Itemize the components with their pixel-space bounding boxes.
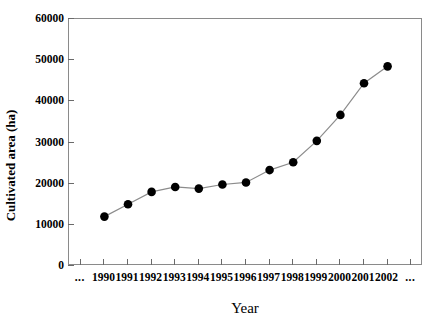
x-tick-label: 1998 <box>281 271 304 283</box>
x-tick-ellipsis: ... <box>405 271 415 283</box>
data-point <box>171 183 180 192</box>
x-tick-label: 1992 <box>139 271 162 283</box>
plot-area <box>68 18 422 265</box>
data-point <box>383 62 392 71</box>
y-tick-mark <box>68 18 74 19</box>
x-axis-title: Year <box>68 300 422 317</box>
data-point <box>195 184 204 193</box>
y-tick-label: 0 <box>2 259 64 271</box>
data-point <box>313 137 322 146</box>
y-tick-label: 50000 <box>2 53 64 65</box>
data-point <box>218 180 227 189</box>
x-tick-mark <box>174 259 175 265</box>
chart-figure: Cultivated area (ha) 0100002000030000400… <box>0 0 439 331</box>
x-axis-tick-labels: ...1990199119921993199419951996199719981… <box>0 271 439 291</box>
data-point <box>336 111 345 120</box>
x-tick-label: 1996 <box>234 271 257 283</box>
x-tick-mark <box>363 259 364 265</box>
y-axis-tick-labels: 0100002000030000400005000060000 <box>0 18 64 265</box>
data-point <box>242 178 251 187</box>
x-tick-label: 1990 <box>92 271 115 283</box>
data-point <box>124 200 133 209</box>
x-tick-label: 1994 <box>186 271 209 283</box>
data-point <box>147 188 156 197</box>
x-tick-mark <box>339 259 340 265</box>
x-tick-mark <box>151 259 152 265</box>
y-tick-mark <box>68 59 74 60</box>
y-tick-label: 40000 <box>2 94 64 106</box>
x-tick-label: 1991 <box>116 271 139 283</box>
x-tick-label: 2001 <box>352 271 375 283</box>
series-markers <box>100 62 392 221</box>
x-tick-mark <box>245 259 246 265</box>
x-tick-mark <box>103 259 104 265</box>
x-tick-mark <box>269 259 270 265</box>
x-tick-mark <box>221 259 222 265</box>
x-tick-mark <box>387 259 388 265</box>
y-tick-label: 30000 <box>2 136 64 148</box>
x-tick-mark <box>316 259 317 265</box>
y-tick-mark <box>68 224 74 225</box>
y-tick-label: 20000 <box>2 177 64 189</box>
x-tick-label: 2002 <box>375 271 398 283</box>
x-tick-mark <box>80 259 81 265</box>
x-tick-ellipsis: ... <box>75 271 85 283</box>
x-tick-mark <box>410 259 411 265</box>
y-tick-label: 10000 <box>2 218 64 230</box>
x-tick-label: 1999 <box>304 271 327 283</box>
x-tick-mark <box>292 259 293 265</box>
x-tick-label: 2000 <box>328 271 351 283</box>
data-point <box>360 79 369 88</box>
data-series-svg <box>69 19 423 266</box>
y-tick-label: 60000 <box>2 12 64 24</box>
data-point <box>289 158 298 167</box>
x-tick-label: 1995 <box>210 271 233 283</box>
y-tick-mark <box>68 100 74 101</box>
x-tick-label: 1993 <box>163 271 186 283</box>
y-tick-mark <box>68 142 74 143</box>
x-tick-mark <box>127 259 128 265</box>
x-tick-label: 1997 <box>257 271 280 283</box>
y-tick-mark <box>68 265 74 266</box>
y-tick-mark <box>68 183 74 184</box>
x-tick-mark <box>198 259 199 265</box>
series-line <box>104 66 387 216</box>
data-point <box>100 212 109 221</box>
data-point <box>265 166 274 175</box>
